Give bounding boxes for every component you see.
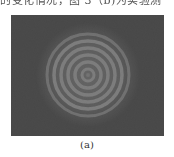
header-text-fragment: 的变化情况，图 3（b)为实验测 xyxy=(0,0,174,7)
figure-caption: (a) xyxy=(0,139,174,150)
interference-ring-image xyxy=(11,15,164,136)
